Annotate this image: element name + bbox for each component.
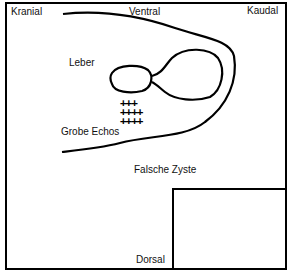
- label-ventral: Ventral: [129, 7, 160, 17]
- label-kranial: Kranial: [11, 7, 42, 17]
- label-dorsal: Dorsal: [136, 255, 165, 265]
- small-cyst: [111, 66, 152, 93]
- echo-row: ++++: [120, 116, 143, 125]
- large-lobe: [152, 50, 222, 100]
- orientation-inset: [172, 188, 287, 270]
- label-grobe-echos: Grobe Echos: [61, 127, 119, 137]
- label-kaudal: Kaudal: [247, 6, 278, 16]
- echo-marks: +++ ++++ ++++: [120, 98, 143, 125]
- label-falsche-zyste: Falsche Zyste: [134, 165, 196, 175]
- label-leber: Leber: [69, 58, 95, 68]
